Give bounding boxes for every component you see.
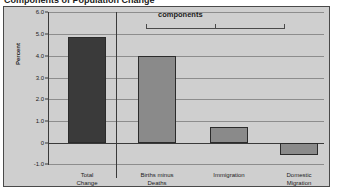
ytick-mark-zero bbox=[45, 143, 48, 144]
chart-plot-frame: Percent 6.0 5.0 4.0 3.0 bbox=[3, 6, 330, 187]
ytick-label-1: 1.0 bbox=[36, 118, 44, 124]
gridline-minus-1 bbox=[48, 164, 324, 165]
ytick-mark-4 bbox=[45, 55, 48, 56]
xlabel-immigration: Immigration bbox=[199, 172, 259, 180]
ytick-mark-6 bbox=[45, 12, 48, 13]
ytick-label-4: 4.0 bbox=[36, 53, 44, 59]
xlabel-total-change: Total Change bbox=[57, 172, 117, 187]
ytick-label-5: 5.0 bbox=[36, 31, 44, 37]
ytick-label-2: 2.0 bbox=[36, 96, 44, 102]
bar-total-change bbox=[68, 37, 106, 143]
y-axis-title: Percent bbox=[15, 43, 21, 65]
ytick-mark-3 bbox=[45, 77, 48, 78]
gridline-5 bbox=[48, 34, 324, 35]
population-change-bar-chart: Components of Population Change Percent bbox=[0, 0, 337, 195]
bar-immigration bbox=[210, 127, 248, 143]
ytick-label-6: 6.0 bbox=[36, 9, 44, 15]
ytick-label-3: 3.0 bbox=[36, 75, 44, 81]
y-axis-line bbox=[48, 12, 49, 165]
xlabel-domestic-migration: Domestic Migration bbox=[269, 172, 329, 187]
bar-domestic-migration bbox=[280, 143, 318, 155]
ytick-label-zero: 0 bbox=[41, 140, 44, 146]
plot-area: 6.0 5.0 4.0 3.0 2.0 1.0 0 -1.0 component… bbox=[48, 12, 324, 165]
ytick-mark-1 bbox=[45, 121, 48, 122]
ytick-label-minus-1: -1.0 bbox=[34, 161, 44, 167]
bar-births-minus-deaths bbox=[138, 56, 176, 143]
xlabel-births-minus-deaths: Births minus Deaths bbox=[127, 172, 187, 187]
chart-title-text: Components of Population Change bbox=[4, 0, 155, 5]
components-bracket-label: components bbox=[158, 11, 203, 19]
ytick-mark-minus-1 bbox=[45, 164, 48, 165]
ytick-mark-5 bbox=[45, 33, 48, 34]
components-bracket-center-tick bbox=[215, 24, 216, 29]
ytick-mark-2 bbox=[45, 99, 48, 100]
group-divider-line bbox=[116, 12, 117, 178]
